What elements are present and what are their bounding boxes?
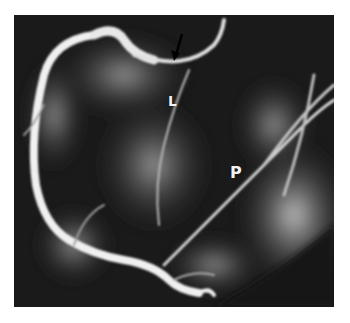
label-l: L (168, 94, 177, 108)
label-p: P (230, 165, 242, 181)
angiogram-graphic (14, 15, 334, 307)
angiogram-image: L P (14, 15, 334, 307)
tissue-haze (24, 30, 334, 295)
